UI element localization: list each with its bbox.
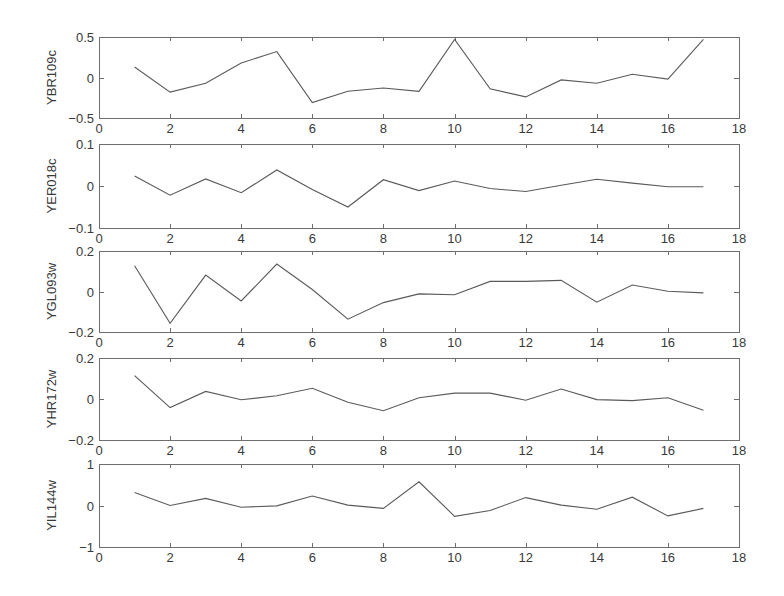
x-tick-label: 6: [309, 231, 316, 246]
x-tick-label: 0: [95, 231, 102, 246]
y-tick-label: 0.2: [76, 351, 94, 366]
x-tick-label: 18: [732, 335, 746, 350]
x-tick-label: 8: [380, 443, 387, 458]
y-tick-label: −0.5: [68, 111, 94, 126]
x-tick-label: 16: [661, 231, 675, 246]
y-axis-label: YIL144w: [44, 480, 59, 531]
x-tick-label: 14: [590, 231, 604, 246]
y-tick-label: −0.2: [68, 325, 94, 340]
axes-frame: [100, 465, 740, 548]
y-tick-label: 0: [87, 71, 94, 86]
x-tick-label: 12: [518, 443, 532, 458]
x-tick-label: 0: [95, 335, 102, 350]
x-tick-label: 18: [732, 121, 746, 136]
x-tick-label: 10: [447, 443, 461, 458]
x-tick-label: 16: [661, 121, 675, 136]
subplot-ybr109c: 024681012141618−0.500.5YBR109c: [44, 30, 746, 136]
x-tick-label: 8: [380, 550, 387, 565]
x-tick-label: 6: [309, 335, 316, 350]
x-tick-label: 18: [732, 443, 746, 458]
x-tick-label: 12: [518, 121, 532, 136]
axes-frame: [100, 38, 740, 119]
x-tick-label: 14: [590, 121, 604, 136]
axes-frame: [100, 252, 740, 333]
axes-frame: [100, 145, 740, 229]
x-tick-label: 0: [95, 121, 102, 136]
x-tick-label: 10: [447, 231, 461, 246]
x-tick-label: 14: [590, 443, 604, 458]
x-tick-label: 14: [590, 335, 604, 350]
y-tick-label: 0: [87, 499, 94, 514]
data-series-line: [135, 39, 704, 102]
x-tick-label: 2: [166, 121, 173, 136]
data-series-line: [135, 264, 704, 323]
x-tick-label: 6: [309, 121, 316, 136]
x-tick-label: 4: [238, 443, 245, 458]
x-tick-label: 4: [238, 335, 245, 350]
x-tick-label: 16: [661, 335, 675, 350]
x-tick-label: 18: [732, 550, 746, 565]
x-tick-label: 0: [95, 550, 102, 565]
x-tick-label: 6: [309, 550, 316, 565]
x-tick-label: 2: [166, 231, 173, 246]
subplot-yhr172w: 024681012141618−0.200.2YHR172w: [44, 351, 746, 458]
y-axis-label: YER018c: [44, 158, 59, 213]
y-tick-label: 0: [87, 285, 94, 300]
x-tick-label: 2: [166, 550, 173, 565]
subplot-ygl093w: 024681012141618−0.200.2YGL093w: [44, 244, 746, 350]
x-tick-label: 16: [661, 443, 675, 458]
x-tick-label: 16: [661, 550, 675, 565]
x-tick-label: 8: [380, 121, 387, 136]
subplot-yil144w: 024681012141618−101YIL144w: [44, 457, 746, 565]
y-tick-label: 0.1: [76, 137, 94, 152]
data-series-line: [135, 376, 704, 411]
y-tick-label: 0: [87, 179, 94, 194]
x-tick-label: 0: [95, 443, 102, 458]
x-tick-label: 12: [518, 231, 532, 246]
y-tick-label: −0.1: [68, 221, 94, 236]
x-tick-label: 2: [166, 443, 173, 458]
x-tick-label: 12: [518, 550, 532, 565]
x-tick-label: 4: [238, 550, 245, 565]
subplot-yer018c: 024681012141618−0.100.1YER018c: [44, 137, 746, 246]
x-tick-label: 4: [238, 121, 245, 136]
y-tick-label: −0.2: [68, 433, 94, 448]
data-series-line: [135, 170, 704, 207]
x-tick-label: 10: [447, 550, 461, 565]
x-tick-label: 14: [590, 550, 604, 565]
x-tick-label: 6: [309, 443, 316, 458]
figure: 024681012141618−0.500.5YBR109c 024681012…: [0, 0, 784, 596]
x-tick-label: 8: [380, 335, 387, 350]
y-tick-label: 0.5: [76, 30, 94, 45]
x-tick-label: 18: [732, 231, 746, 246]
y-tick-label: 1: [87, 457, 94, 472]
y-tick-label: 0.2: [76, 244, 94, 259]
y-axis-label: YGL093w: [44, 262, 59, 320]
y-axis-label: YBR109c: [44, 50, 59, 105]
x-tick-label: 10: [447, 121, 461, 136]
x-tick-label: 10: [447, 335, 461, 350]
y-tick-label: 0: [87, 392, 94, 407]
data-series-line: [135, 482, 704, 517]
x-tick-label: 4: [238, 231, 245, 246]
y-axis-label: YHR172w: [44, 369, 59, 428]
x-tick-label: 12: [518, 335, 532, 350]
x-tick-label: 2: [166, 335, 173, 350]
y-tick-label: −1: [79, 540, 94, 555]
x-tick-label: 8: [380, 231, 387, 246]
